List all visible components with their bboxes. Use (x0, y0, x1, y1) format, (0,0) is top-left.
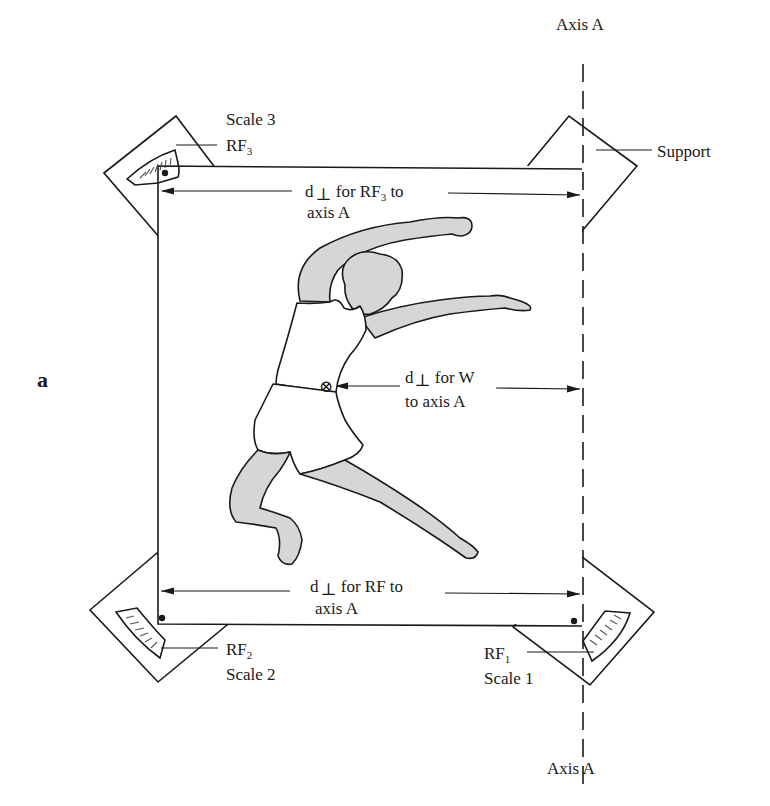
axis-a-top-label: Axis A (556, 15, 604, 34)
w-dimension-label-line2: to axis A (405, 392, 466, 411)
reaction-board-diagram: ⊗ Axis A Axis A Support Scale 3 RF3 RF2 … (0, 0, 770, 806)
scale-1-dial (583, 611, 630, 661)
rf3-label: RF3 (226, 136, 253, 157)
panel-label: a (37, 367, 48, 392)
bottom-dimension-label-line2: axis A (315, 599, 359, 618)
center-of-gravity-symbol: ⊗ (319, 377, 333, 396)
support-label: Support (657, 142, 711, 161)
rf1-label: RF1 (484, 644, 510, 665)
w-dimension-label-line1: d⊥ for W (405, 368, 476, 390)
axis-a-bottom-label: Axis A (547, 759, 595, 778)
scale-2-label: Scale 2 (226, 665, 276, 684)
contact-point-rf2 (159, 615, 165, 621)
top-dimension-label-line1: d⊥ for RF3 to (305, 182, 404, 204)
scale-1-label: Scale 1 (484, 669, 534, 688)
bottom-dimension-label-line1: d⊥ for RF to (310, 577, 403, 599)
rf2-label: RF2 (226, 640, 252, 661)
contact-point-rf3 (162, 170, 168, 176)
scale-3-label: Scale 3 (226, 110, 276, 129)
top-dimension-label-line2: axis A (307, 203, 351, 222)
contact-point-rf1 (571, 618, 577, 624)
